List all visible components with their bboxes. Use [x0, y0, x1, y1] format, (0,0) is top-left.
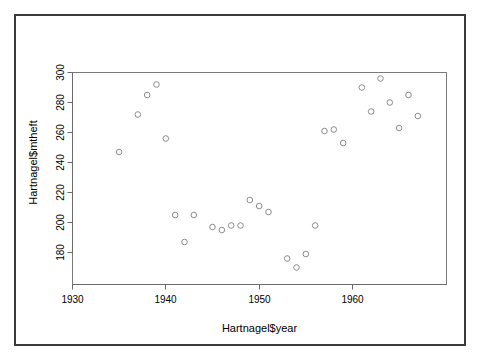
data-point	[256, 203, 262, 209]
x-axis-ticks	[73, 285, 353, 290]
x-tick-label-1940: 1940	[154, 294, 177, 305]
data-point	[294, 265, 300, 271]
data-point	[284, 256, 290, 262]
y-tick-label-220: 220	[55, 184, 66, 201]
y-axis-title: Hartnagel$mtheft	[27, 120, 39, 204]
data-point	[368, 109, 374, 115]
data-point	[331, 127, 337, 133]
data-point	[172, 212, 178, 218]
data-point	[415, 113, 421, 119]
data-point	[247, 197, 253, 203]
data-point	[135, 112, 141, 118]
data-point	[396, 125, 402, 131]
data-point	[191, 212, 197, 218]
data-point	[406, 92, 412, 98]
x-axis-tick-labels: 1930 1940 1950 1960	[61, 294, 364, 305]
y-tick-label-180: 180	[55, 244, 66, 261]
screenshot-root: 300 280 260 240 220 200 180 Hartnagel$mt…	[0, 0, 482, 363]
data-points-layer	[116, 76, 420, 271]
plot-window: 300 280 260 240 220 200 180 Hartnagel$mt…	[14, 14, 466, 346]
y-axis-ticks	[68, 73, 73, 253]
data-point	[144, 92, 150, 98]
y-tick-label-240: 240	[55, 154, 66, 171]
plot-canvas: 300 280 260 240 220 200 180 Hartnagel$mt…	[16, 16, 464, 344]
y-axis: 300 280 260 240 220 200 180 Hartnagel$mt…	[27, 64, 73, 261]
x-tick-label-1950: 1950	[248, 294, 271, 305]
data-point	[266, 209, 272, 215]
x-tick-label-1930: 1930	[61, 294, 84, 305]
data-point	[228, 223, 234, 229]
data-point	[312, 223, 318, 229]
data-point	[378, 76, 384, 82]
data-point	[238, 223, 244, 229]
data-point	[182, 239, 188, 245]
x-axis-title: Hartnagel$year	[222, 322, 298, 334]
data-point	[116, 149, 122, 155]
data-point	[154, 82, 160, 88]
y-tick-label-260: 260	[55, 124, 66, 141]
data-point	[219, 227, 225, 233]
data-point	[322, 128, 328, 134]
y-tick-label-300: 300	[55, 64, 66, 81]
data-point	[387, 100, 393, 106]
y-tick-label-200: 200	[55, 214, 66, 231]
data-point	[303, 251, 309, 257]
plot-panel-border	[73, 73, 447, 285]
data-point	[210, 224, 216, 230]
x-tick-label-1960: 1960	[341, 294, 364, 305]
data-point	[340, 140, 346, 146]
x-axis: 1930 1940 1950 1960 Hartnagel$year	[61, 285, 446, 335]
data-point	[359, 85, 365, 91]
y-tick-label-280: 280	[55, 94, 66, 111]
data-point	[163, 136, 169, 142]
y-axis-tick-labels: 300 280 260 240 220 200 180	[55, 64, 66, 261]
scatter-plot: 300 280 260 240 220 200 180 Hartnagel$mt…	[16, 16, 464, 344]
